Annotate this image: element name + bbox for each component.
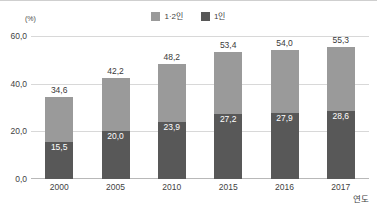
x-axis-tick-label: 2010 (162, 182, 181, 192)
legend-label-series-2: 1인 (214, 12, 225, 21)
bar-slot[interactable]: 54,027,9 (271, 36, 299, 179)
x-axis-tick-label: 2000 (50, 182, 69, 192)
bar-slot[interactable]: 42,220,0 (102, 36, 130, 179)
bar-group: 34,615,542,220,048,223,953,427,254,027,9… (31, 36, 369, 179)
y-axis-tick-label: 20,0 (10, 127, 27, 136)
bar-value-label-single: 28,6 (333, 112, 350, 121)
bar-value-label-single: 27,2 (220, 115, 237, 124)
bar-value-label-total: 48,2 (164, 53, 181, 62)
x-axis-tick-label: 2016 (275, 182, 294, 192)
bar-slot[interactable]: 48,223,9 (158, 36, 186, 179)
bar-value-label-single: 27,9 (276, 114, 293, 123)
bar-value-label-total: 55,3 (333, 36, 350, 45)
x-axis-tick-label: 2015 (219, 182, 238, 192)
chart-container: 1·2인 1인 (%) 0,020,040,060,0 34,615,542,2… (0, 0, 377, 211)
bar-value-label-total: 53,4 (220, 41, 237, 50)
bar-slot[interactable]: 55,328,6 (327, 36, 355, 179)
legend-swatch-dark-icon (201, 12, 210, 21)
legend-item-series-2[interactable]: 1인 (201, 12, 225, 21)
x-axis-tick-label: 2017 (331, 182, 350, 192)
bar-value-label-total: 54,0 (276, 39, 293, 48)
bar-slot[interactable]: 53,427,2 (214, 36, 242, 179)
bar-value-label-single: 20,0 (107, 132, 124, 141)
x-axis-title: 연도 (353, 194, 369, 204)
chart-legend: 1·2인 1인 (0, 10, 377, 22)
x-axis-tick-label: 2005 (106, 182, 125, 192)
legend-item-series-1[interactable]: 1·2인 (151, 12, 183, 21)
legend-label-series-1: 1·2인 (164, 12, 183, 21)
bar-value-label-total: 34,6 (51, 86, 68, 95)
bar-slot[interactable]: 34,615,5 (45, 36, 73, 179)
bar-value-label-single: 23,9 (164, 123, 181, 132)
y-axis-tick-label: 40,0 (10, 79, 27, 88)
y-axis-unit-label: (%) (25, 15, 36, 23)
plot-area: 0,020,040,060,0 34,615,542,220,048,223,9… (31, 36, 369, 179)
legend-swatch-light-icon (151, 12, 160, 21)
y-axis-tick-label: 60,0 (10, 32, 27, 41)
bar-value-label-single: 15,5 (51, 143, 68, 152)
bar-segment-single[interactable] (327, 111, 355, 179)
bar-value-label-total: 42,2 (107, 67, 124, 76)
y-axis-tick-label: 0,0 (15, 175, 27, 184)
